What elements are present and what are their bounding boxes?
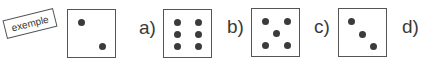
item-label-a: a) bbox=[139, 18, 156, 37]
dot bbox=[284, 18, 291, 25]
dot bbox=[78, 19, 85, 26]
dice-box-a bbox=[163, 9, 212, 58]
dot bbox=[174, 19, 181, 26]
dot bbox=[273, 30, 280, 37]
dot bbox=[348, 18, 355, 25]
dot bbox=[195, 31, 202, 38]
dot bbox=[99, 43, 106, 50]
dice-box-b bbox=[251, 8, 300, 57]
dot bbox=[262, 18, 269, 25]
item-label-c: c) bbox=[314, 17, 330, 36]
dot bbox=[174, 31, 181, 38]
dot bbox=[174, 43, 181, 50]
item-label-b: b) bbox=[227, 17, 244, 36]
dot bbox=[262, 42, 269, 49]
dice-box-c bbox=[338, 8, 387, 57]
dot bbox=[370, 43, 377, 50]
dot bbox=[195, 19, 202, 26]
dot bbox=[359, 31, 366, 38]
dot bbox=[195, 43, 202, 50]
dot bbox=[284, 42, 291, 49]
example-dice-box bbox=[67, 9, 116, 58]
example-tag: exemple bbox=[2, 8, 57, 39]
item-label-d: d) bbox=[402, 17, 419, 36]
